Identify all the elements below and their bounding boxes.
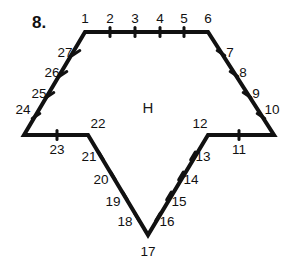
point-label-17: 17 bbox=[140, 245, 155, 259]
point-label-5: 5 bbox=[180, 12, 188, 26]
point-label-19: 19 bbox=[105, 195, 120, 209]
polygon-outline bbox=[24, 32, 274, 235]
point-label-12: 12 bbox=[192, 117, 207, 131]
tick-mark-24 bbox=[32, 114, 40, 119]
point-label-22: 22 bbox=[90, 117, 105, 131]
point-label-8: 8 bbox=[239, 66, 247, 80]
point-label-9: 9 bbox=[252, 87, 260, 101]
point-label-2: 2 bbox=[106, 12, 114, 26]
point-label-24: 24 bbox=[15, 103, 30, 117]
point-label-1: 1 bbox=[81, 12, 89, 26]
point-label-4: 4 bbox=[156, 12, 164, 26]
point-label-15: 15 bbox=[171, 195, 186, 209]
tick-mark-8 bbox=[230, 72, 238, 77]
point-label-26: 26 bbox=[44, 66, 59, 80]
tick-mark-7 bbox=[217, 51, 225, 56]
point-label-14: 14 bbox=[183, 173, 198, 187]
polygon-figure bbox=[0, 0, 296, 269]
point-label-18: 18 bbox=[117, 215, 132, 229]
point-label-23: 23 bbox=[49, 143, 64, 157]
figure-container: 8. H 12345678910111213141516171819202122… bbox=[0, 0, 296, 269]
point-label-3: 3 bbox=[131, 12, 139, 26]
point-label-6: 6 bbox=[204, 12, 212, 26]
interior-label-h: H bbox=[143, 100, 154, 115]
point-label-16: 16 bbox=[159, 215, 174, 229]
point-label-21: 21 bbox=[81, 150, 96, 164]
tick-mark-21 bbox=[99, 152, 104, 160]
point-label-11: 11 bbox=[232, 143, 246, 157]
problem-number: 8. bbox=[32, 14, 46, 31]
point-label-20: 20 bbox=[93, 173, 108, 187]
point-label-27: 27 bbox=[57, 46, 72, 60]
point-label-7: 7 bbox=[226, 46, 234, 60]
point-label-10: 10 bbox=[264, 103, 279, 117]
tick-mark-19 bbox=[123, 192, 128, 200]
tick-mark-18 bbox=[135, 213, 140, 221]
tick-mark-20 bbox=[111, 172, 116, 180]
point-label-25: 25 bbox=[31, 87, 46, 101]
point-label-13: 13 bbox=[195, 150, 210, 164]
